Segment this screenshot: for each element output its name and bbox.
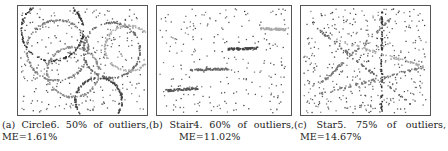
- caption-c-of: of: [387, 119, 396, 131]
- caption-b-outliers: 60%: [209, 119, 230, 131]
- scatter-plot-c: [301, 6, 430, 115]
- caption-a-me: ME=1.61%: [2, 131, 149, 143]
- panel-a-plot: [17, 5, 148, 116]
- panel-b-plot: [156, 5, 292, 116]
- caption-c-outliers: 75%: [356, 119, 377, 131]
- caption-b-me: ME=11.02%: [149, 131, 294, 143]
- scatter-plot-b: [157, 6, 291, 115]
- caption-a-outliers: 50%: [66, 119, 87, 131]
- caption-a-label: (a): [2, 119, 15, 131]
- caption-b-outliers-word: outliers,: [254, 119, 294, 131]
- caption-a-of: of: [93, 119, 102, 131]
- caption-c-label: (c): [294, 119, 307, 131]
- scatter-plot-a: [18, 6, 147, 115]
- caption-b-label: (b): [149, 119, 163, 131]
- caption-c-outliers-word: outliers,: [406, 119, 446, 131]
- caption-c-name: Star5.: [316, 119, 346, 131]
- caption-c-me: ME=14.67%: [294, 131, 446, 143]
- caption-b: (b) Stair4. 60% of outliers, ME=11.02%: [149, 119, 294, 142]
- caption-a: (a) Circle6. 50% of outliers, ME=1.61%: [2, 119, 149, 142]
- caption-b-name: Stair4.: [170, 119, 203, 131]
- caption-a-outliers-word: outliers,: [109, 119, 149, 131]
- caption-b-of: of: [238, 119, 247, 131]
- panel-c-plot: [300, 5, 431, 116]
- caption-a-name: Circle6.: [21, 119, 59, 131]
- caption-c: (c) Star5. 75% of outliers, ME=14.67%: [294, 119, 446, 142]
